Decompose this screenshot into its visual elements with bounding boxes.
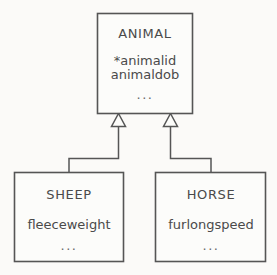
generalization-connector-horse [164, 114, 212, 174]
generalization-arrowhead-horse [164, 114, 178, 127]
entity-animal-ellipsis: ... [137, 87, 154, 102]
entity-animal-title: ANIMAL [118, 26, 172, 41]
connector-path-sheep [69, 127, 119, 174]
connector-path-horse [171, 127, 212, 174]
diagram-canvas: ANIMAL *animalid animaldob ... SHEEP fle… [0, 0, 277, 275]
entity-sheep-attribute-0: fleeceweight [27, 217, 110, 232]
entity-sheep-ellipsis: ... [61, 238, 78, 253]
entity-horse-title: HORSE [187, 187, 236, 202]
entity-animal-attribute-1: animaldob [111, 67, 180, 82]
entity-horse[interactable]: HORSE furlongspeed ... [156, 173, 266, 262]
generalization-arrowhead-sheep [112, 114, 126, 127]
entity-horse-ellipsis: ... [203, 238, 220, 253]
entity-animal-attribute-0: *animalid [114, 53, 176, 68]
generalization-connector-sheep [69, 114, 126, 174]
entity-animal[interactable]: ANIMAL *animalid animaldob ... [98, 14, 193, 114]
entity-horse-attribute-0: furlongspeed [168, 217, 254, 232]
entity-sheep-title: SHEEP [46, 187, 91, 202]
entity-sheep[interactable]: SHEEP fleeceweight ... [15, 173, 124, 262]
uml-generalization-diagram: ANIMAL *animalid animaldob ... SHEEP fle… [0, 0, 277, 275]
